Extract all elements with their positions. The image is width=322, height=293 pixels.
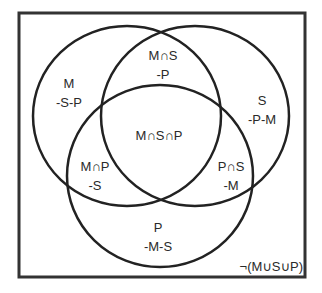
venn-canvas: M-S-PM∩S-PS-P-MM∩S∩PM∩P-SP∩S-MP-M-S ¬(M∪… xyxy=(0,0,322,293)
region-label-p-only: P-M-S xyxy=(144,220,172,254)
region-label-m-and-p-not-s: M∩P-S xyxy=(81,159,110,193)
region-label-m-only: M-S-P xyxy=(56,76,82,110)
region-label-s-only: S-P-M xyxy=(248,93,276,127)
region-label-m-and-s-and-p: M∩S∩P xyxy=(136,128,183,143)
region-label-p-and-s-not-m: P∩S-M xyxy=(218,159,245,193)
complement-label: ¬(M∪S∪P) xyxy=(240,259,303,274)
region-labels: M-S-PM∩S-PS-P-MM∩S∩PM∩P-SP∩S-MP-M-S xyxy=(56,48,276,254)
region-label-m-and-s-not-p: M∩S-P xyxy=(149,48,178,82)
venn-diagram: M-S-PM∩S-PS-P-MM∩S∩PM∩P-SP∩S-MP-M-S ¬(M∪… xyxy=(0,0,322,293)
